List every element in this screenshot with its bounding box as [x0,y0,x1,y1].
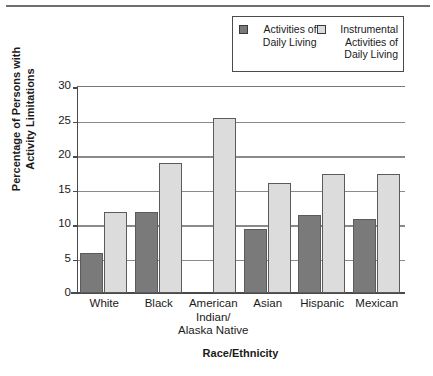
y-tick-label: 30 [49,80,71,92]
legend-item-instrumental-activities-of-daily-living: Instrumental Activities of Daily Living [317,23,398,67]
bar-american-indian-iadl [213,118,236,293]
legend-item-label: Activities of Daily Living [252,23,317,48]
bar-white-iadl [104,212,127,293]
bar-groups [77,86,404,293]
bar-group-mexican [350,86,405,293]
bar-hispanic-iadl [322,174,345,293]
bar-group-asian [241,86,296,293]
bar-white-adl [80,253,103,293]
y-axis-ticks: 30 25 20 15 10 5 0 [47,86,71,293]
bar-group-white [77,86,132,293]
light-gray-swatch-icon [317,25,326,34]
bar-group-hispanic [295,86,350,293]
legend-item-activities-of-daily-living: Activities of Daily Living [239,23,317,67]
y-tick-label: 25 [49,115,71,127]
y-tick-label: 5 [49,253,71,265]
bar-mexican-iadl [377,174,400,293]
x-axis-title: Race/Ethnicity [77,347,404,359]
bar-black-iadl [159,163,182,293]
x-tick-label-mexican: Mexican [340,297,414,311]
y-tick-label: 15 [49,184,71,196]
bar-group-black [132,86,187,293]
y-axis-title: Percentage of Persons with Activity Limi… [0,14,46,224]
dark-gray-swatch-icon [239,25,248,34]
bar-black-adl [135,212,158,293]
bar-chart-figure: Activities of Daily Living Instrumental … [0,0,433,376]
y-tick-label: 10 [49,218,71,230]
bar-hispanic-adl [298,215,321,293]
x-axis-tick-labels: White Black American Indian/ Alaska Nati… [77,297,404,343]
legend-item-label: Instrumental Activities of Daily Living [330,23,398,61]
y-tick-label: 20 [49,149,71,161]
top-divider-rule [6,5,430,7]
chart-legend: Activities of Daily Living Instrumental … [232,16,404,72]
bar-asian-iadl [268,183,291,293]
bar-asian-adl [244,229,267,293]
bar-mexican-adl [353,219,376,293]
bar-group-american-indian-alaska-native [186,86,241,293]
